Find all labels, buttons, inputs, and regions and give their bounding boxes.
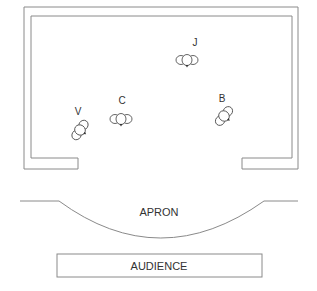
outer-left-flap xyxy=(24,158,78,169)
actor-c-label: C xyxy=(118,96,125,106)
actor-c-figure[interactable] xyxy=(110,114,132,127)
actor-j-figure[interactable] xyxy=(176,55,198,68)
apron-label: APRON xyxy=(139,207,178,218)
actor-b-figure[interactable] xyxy=(213,104,237,129)
outer-stage-wall xyxy=(24,7,298,169)
actor-v-figure[interactable] xyxy=(69,118,92,143)
actor-b-label: B xyxy=(219,94,226,104)
actor-v-label: V xyxy=(75,107,82,117)
stage-diagram xyxy=(0,0,317,291)
audience-label: AUDIENCE xyxy=(131,261,188,272)
actor-j-label: J xyxy=(193,38,198,48)
inner-stage-wall xyxy=(31,16,292,169)
